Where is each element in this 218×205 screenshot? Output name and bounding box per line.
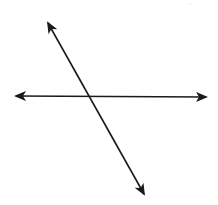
intersecting-lines-diagram [0,0,218,205]
stray-dot [190,4,191,5]
horizontal-line [16,96,206,97]
transversal-line [48,23,144,194]
